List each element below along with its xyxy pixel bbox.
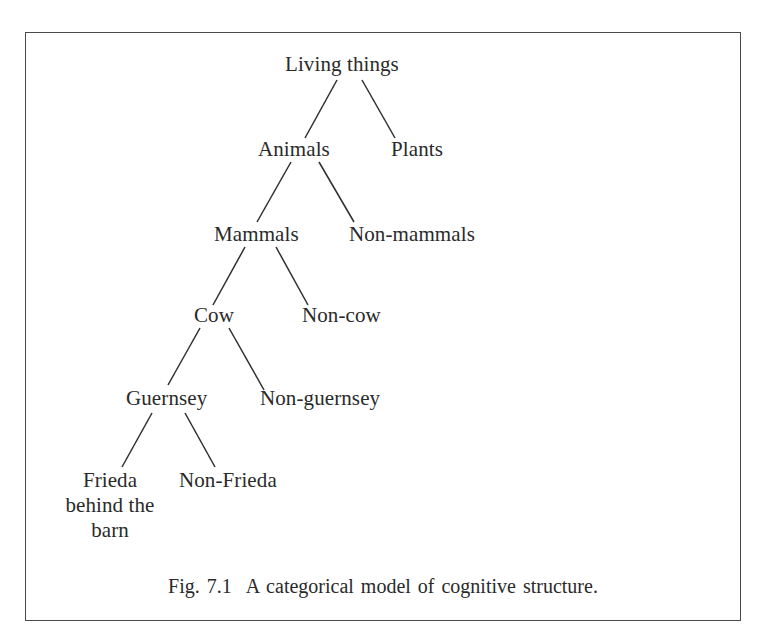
node-non-cow: Non-cow — [302, 303, 381, 328]
figure-caption: Fig. 7.1A categorical model of cognitive… — [0, 574, 766, 598]
node-non-mammals: Non-mammals — [349, 222, 475, 247]
node-frieda-line-2: behind the — [55, 493, 165, 518]
node-frieda-line-1: Frieda — [55, 468, 165, 493]
node-mammals: Mammals — [214, 222, 299, 247]
edge-guernsey-nonfrieda — [185, 413, 215, 467]
node-cow: Cow — [194, 303, 234, 328]
node-guernsey: Guernsey — [126, 386, 207, 411]
edge-guernsey-frieda — [122, 413, 152, 467]
edge-mammals-cow — [213, 247, 245, 305]
node-frieda-line-3: barn — [55, 518, 165, 543]
edge-mammals-noncow — [276, 247, 308, 305]
tree-edges — [0, 0, 766, 643]
figure-number: Fig. 7.1 — [168, 575, 232, 597]
edge-animals-nonmammals — [319, 162, 354, 222]
node-non-guernsey: Non-guernsey — [260, 386, 380, 411]
edge-living-animals — [305, 80, 337, 138]
edge-cow-nonguernsey — [229, 328, 264, 390]
edge-cow-guernsey — [168, 328, 200, 385]
edge-animals-mammals — [257, 162, 291, 222]
node-animals: Animals — [258, 137, 330, 162]
node-plants: Plants — [391, 137, 443, 162]
node-frieda-behind-the-barn: Frieda behind the barn — [55, 468, 165, 543]
node-living-things: Living things — [285, 52, 399, 77]
edge-living-plants — [362, 80, 395, 138]
node-non-frieda: Non-Frieda — [179, 468, 277, 493]
figure-caption-text: A categorical model of cognitive structu… — [246, 575, 598, 597]
